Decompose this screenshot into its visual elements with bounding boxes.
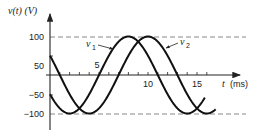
x-tick-label-5: 5	[94, 60, 99, 70]
v1-subscript: 1	[92, 44, 96, 51]
x-axis-label-unit: (ms)	[230, 79, 248, 89]
v2-label: v	[180, 36, 185, 47]
y-tick-label-100: 100	[29, 32, 44, 42]
x-tick-label-10: 10	[143, 79, 153, 89]
x-tick-label-15: 15	[192, 79, 202, 89]
y-tick-label-minus-50: −50	[29, 90, 44, 100]
v2-subscript: 2	[186, 42, 190, 49]
v2-pointer-arrow	[166, 43, 178, 48]
v1-label: v	[86, 38, 91, 49]
y-tick-label-minus-100: −100	[24, 109, 44, 119]
v1-pointer-arrow	[98, 45, 113, 49]
voltage-chart: v(t) (V) 100 50 −50 −100 5 10 15 t (ms) …	[0, 0, 258, 138]
y-tick-label-50: 50	[34, 61, 44, 71]
y-axis-label: v(t) (V)	[8, 5, 38, 17]
x-axis-label-t: t	[222, 78, 225, 89]
